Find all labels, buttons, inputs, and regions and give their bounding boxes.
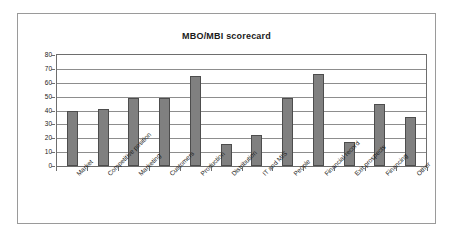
y-tick-label: 60 bbox=[32, 79, 52, 87]
x-label-text: Marketing bbox=[137, 172, 142, 177]
x-tick-mark bbox=[303, 167, 304, 171]
x-label-text: Production bbox=[199, 172, 204, 177]
y-tick-label: 70 bbox=[32, 65, 52, 73]
y-axis: 80706050403020100 bbox=[32, 50, 52, 171]
x-label-text: Financial record bbox=[323, 172, 328, 177]
y-tick-label: 50 bbox=[32, 93, 52, 101]
y-tick-mark bbox=[51, 83, 55, 84]
y-tick-mark bbox=[51, 55, 55, 56]
x-tick-mark bbox=[149, 167, 150, 171]
x-label-text: Competitive position bbox=[106, 172, 111, 177]
x-tick-mark bbox=[334, 167, 335, 171]
bar-slot bbox=[242, 55, 273, 166]
bar[interactable] bbox=[67, 111, 78, 167]
bar[interactable] bbox=[98, 109, 109, 166]
y-tick-label: 20 bbox=[32, 134, 52, 142]
bar-slot bbox=[395, 55, 426, 166]
x-tick-mark bbox=[427, 167, 428, 171]
y-tick-mark bbox=[51, 97, 55, 98]
bar-slot bbox=[149, 55, 180, 166]
plot-area bbox=[56, 54, 427, 167]
bar-slot bbox=[303, 55, 334, 166]
x-label-text: Customers bbox=[168, 172, 173, 177]
chart-title: MBO/MBI scorecard bbox=[18, 31, 435, 41]
y-tick-mark bbox=[51, 124, 55, 125]
x-tick-mark bbox=[118, 167, 119, 171]
y-tick-mark bbox=[51, 138, 55, 139]
x-tick-mark bbox=[365, 167, 366, 171]
y-tick-mark bbox=[51, 166, 55, 167]
y-tick-label: 80 bbox=[32, 51, 52, 59]
y-tick-mark bbox=[51, 69, 55, 70]
y-tick-mark bbox=[51, 111, 55, 112]
y-tick-label: 10 bbox=[32, 148, 52, 156]
bars-layer bbox=[57, 55, 426, 166]
y-tick-label: 40 bbox=[32, 107, 52, 115]
x-tick-mark bbox=[211, 167, 212, 171]
x-axis-labels: MarketCompetitive positionMarketingCusto… bbox=[56, 170, 427, 225]
bar[interactable] bbox=[313, 74, 324, 166]
x-label-text: Exit prospects bbox=[353, 172, 358, 177]
x-label-text: People bbox=[292, 172, 297, 177]
x-tick-mark bbox=[242, 167, 243, 171]
bar-slot bbox=[272, 55, 303, 166]
x-tick-mark bbox=[396, 167, 397, 171]
x-tick-mark bbox=[180, 167, 181, 171]
y-tick-label: 30 bbox=[32, 120, 52, 128]
bar-slot bbox=[211, 55, 242, 166]
bar-slot bbox=[180, 55, 211, 166]
x-tick-mark bbox=[87, 167, 88, 171]
y-tick-label: 0 bbox=[32, 162, 52, 170]
bar-slot bbox=[88, 55, 119, 166]
x-tick-mark bbox=[56, 167, 57, 171]
bar-slot bbox=[57, 55, 88, 166]
x-label-text: Market bbox=[75, 172, 80, 177]
x-label-text: Financing bbox=[384, 172, 389, 177]
x-label-text: Other bbox=[415, 172, 420, 177]
x-label-text: Distribution bbox=[230, 172, 235, 177]
y-tick-mark bbox=[51, 152, 55, 153]
x-tick-mark bbox=[272, 167, 273, 171]
chart-frame: MBO/MBI scorecard 80706050403020100 Mark… bbox=[17, 13, 436, 224]
x-label-text: IT and MIS bbox=[261, 172, 266, 177]
